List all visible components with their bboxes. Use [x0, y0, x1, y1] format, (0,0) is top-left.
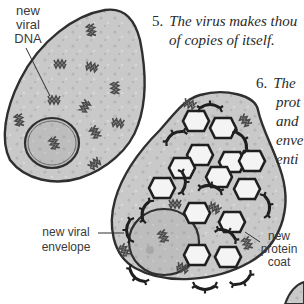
label-new-viral-dna: new viral DNA	[6, 4, 50, 46]
step-text-line: prot	[256, 93, 303, 112]
label-line: new viral	[36, 225, 96, 240]
step-number: 5.	[152, 13, 163, 29]
step-number: 6.	[256, 75, 267, 91]
label-line: coat	[254, 256, 304, 269]
step-text-line: enti	[256, 150, 303, 169]
label-line: new	[6, 4, 50, 18]
step-text-line: and	[256, 112, 303, 131]
label-new-viral-envelope: new viral envelope	[36, 225, 96, 255]
label-line: viral	[6, 18, 50, 32]
next-cell-fragment	[285, 282, 304, 304]
virus-replication-diagram: new viral DNA new viral envelope new pro…	[0, 0, 304, 304]
step-text-line: enve	[256, 131, 303, 150]
label-line: DNA	[6, 32, 50, 46]
label-line: envelope	[36, 240, 96, 255]
step-6-caption: 6.The prot and enve enti	[256, 74, 303, 169]
step-text-line: The	[273, 75, 296, 91]
step-text-line: of copies of itself.	[152, 31, 297, 50]
label-new-protein-coat: new protein coat	[254, 230, 304, 269]
step-text-line: The virus makes thou	[169, 13, 297, 29]
step-5-caption: 5.The virus makes thou of copies of itse…	[152, 12, 297, 50]
